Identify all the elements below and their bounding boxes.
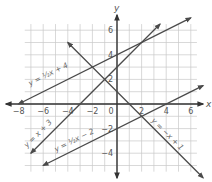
x-tick-label: 0 bbox=[108, 107, 113, 116]
x-tick-label: 4 bbox=[164, 107, 169, 116]
x-tick-label: −2 bbox=[87, 107, 99, 116]
y-axis-label: y bbox=[113, 3, 120, 13]
y-tick-label: −4 bbox=[101, 149, 113, 158]
equation-label-half-x-plus-4: y = ½x + 4 bbox=[26, 60, 70, 88]
equation-label-x-plus-3: y = x + 3 bbox=[21, 118, 54, 151]
y-tick-label: −2 bbox=[101, 125, 113, 134]
x-axis-label: x bbox=[205, 99, 212, 109]
x-tick-label: −6 bbox=[37, 107, 49, 116]
axes: xy−8−6−4−20246642−2−4 bbox=[6, 3, 212, 178]
y-tick-label: 6 bbox=[108, 26, 113, 35]
x-tick-label: −8 bbox=[13, 107, 25, 116]
graph: xy−8−6−4−20246642−2−4 y = ½x + 4y = x + … bbox=[0, 0, 212, 182]
x-tick-label: 6 bbox=[188, 107, 193, 116]
equation-label-neg-x-plus-1: y = −x + 1 bbox=[149, 115, 186, 152]
